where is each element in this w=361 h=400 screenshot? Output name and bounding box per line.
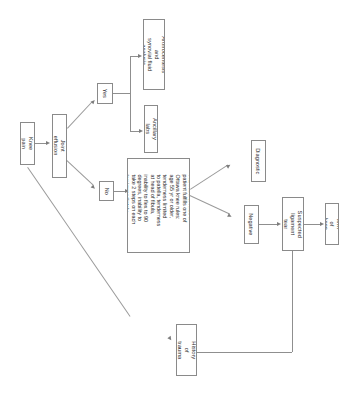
node-knee-pain[interactable]: Knee pain xyxy=(20,122,35,165)
node-arthrocentesis-label: Arthrocentesis and synovial fluid analys… xyxy=(143,36,165,73)
node-diagnostic[interactable]: Diagnostic xyxy=(251,140,266,182)
arrowhead-negative xyxy=(227,213,232,218)
edge-suspected-tear-to-mri xyxy=(304,224,321,225)
arrowhead-history-trauma xyxy=(167,336,173,342)
node-history-of-trauma[interactable]: History of trauma xyxy=(176,324,197,376)
node-no-label: No xyxy=(103,187,110,194)
arrowhead-suspected-tear xyxy=(277,222,281,226)
edge-joint-effusion-to-yes xyxy=(67,102,92,129)
edge-plain-film-to-negative xyxy=(190,195,230,215)
node-plain-film-label: Plain film of knee if patient fulfills o… xyxy=(127,175,190,236)
arrowhead-arthrocentesis xyxy=(138,54,142,58)
arrowhead-yes xyxy=(91,99,97,105)
node-no[interactable]: No xyxy=(99,181,114,201)
arrowhead-no xyxy=(91,185,97,191)
edge-knee-pain-to-history-trauma xyxy=(27,167,130,317)
edge-bus-vertical-yes xyxy=(130,56,131,131)
node-diagnostic-label: Diagnostic xyxy=(255,148,262,174)
node-suspected-ligament-tear[interactable]: Suspected ligament tear xyxy=(282,197,304,251)
arrowhead-ancillary-labs xyxy=(139,129,143,133)
node-yes-label: Yes xyxy=(102,89,109,98)
edge-plain-film-to-diagnostic xyxy=(190,164,228,189)
node-plain-film-ottawa-rules[interactable]: Plain film of knee if patient fulfills o… xyxy=(127,158,190,253)
node-joint-effusion-label: Joint effusion xyxy=(53,136,66,156)
edge-history-trauma-horizontal xyxy=(196,352,292,353)
edge-negative-to-suspected-tear xyxy=(259,224,278,225)
node-history-trauma-label: History of trauma xyxy=(176,340,196,359)
flowchart-canvas: Knee pain Joint effusion Yes No Arthroce… xyxy=(0,0,361,400)
node-ancillary-labs[interactable]: Ancillary labs xyxy=(144,105,158,153)
edge-joint-effusion-to-no xyxy=(66,160,93,185)
edge-history-trauma-vertical xyxy=(292,250,293,352)
arrowhead-joint-effusion xyxy=(46,141,50,145)
node-arthrocentesis[interactable]: Arthrocentesis and synovial fluid analys… xyxy=(143,19,165,90)
node-joint-effusion[interactable]: Joint effusion xyxy=(52,114,67,178)
node-negative-label: Negative xyxy=(248,213,255,235)
node-yes[interactable]: Yes xyxy=(97,83,113,104)
edge-yes-to-bus xyxy=(113,93,130,94)
node-mri-of-knee[interactable]: MRI of knee xyxy=(325,203,339,245)
node-knee-pain-label: Knee pain xyxy=(21,137,34,150)
arrowhead-mri xyxy=(320,222,324,226)
node-mri-label: MRI of knee xyxy=(325,218,339,230)
node-negative[interactable]: Negative xyxy=(244,205,259,244)
node-ancillary-labs-label: Ancillary labs xyxy=(144,118,158,140)
node-suspected-tear-label: Suspected ligament tear xyxy=(283,210,303,237)
arrowhead-diagnostic xyxy=(226,163,232,169)
